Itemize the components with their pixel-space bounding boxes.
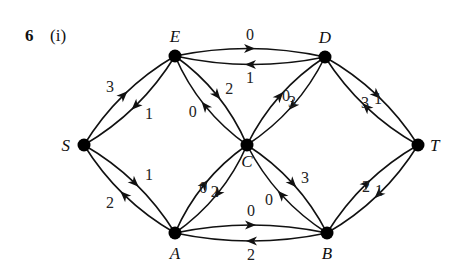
node-label-C: C bbox=[241, 152, 253, 171]
edge-weight-C-B: 3 bbox=[301, 169, 309, 186]
edge-weight-C-A: 0 bbox=[199, 179, 207, 196]
edge-weight-T-D: 1 bbox=[374, 90, 382, 107]
node-A bbox=[169, 227, 182, 240]
edge-B-T bbox=[327, 145, 418, 233]
edge-E-C bbox=[175, 56, 247, 145]
edge-weight-B-A: 2 bbox=[247, 246, 255, 263]
node-label-B: B bbox=[322, 244, 333, 263]
node-E bbox=[169, 50, 182, 63]
edge-weight-S-E: 3 bbox=[106, 78, 114, 95]
edge-weight-B-T: 1 bbox=[375, 182, 383, 199]
edge-T-D bbox=[325, 57, 418, 145]
edge-weight-T-B: 2 bbox=[362, 178, 370, 195]
edge-S-E bbox=[84, 56, 175, 145]
node-T bbox=[412, 139, 425, 152]
node-C bbox=[241, 139, 254, 152]
edge-weight-E-D: 0 bbox=[246, 26, 254, 43]
edge-A-S bbox=[84, 145, 175, 233]
edge-weight-D-T: 3 bbox=[361, 94, 369, 111]
edge-E-S bbox=[84, 56, 175, 145]
node-label-S: S bbox=[62, 136, 71, 155]
edge-weight-A-C: 2 bbox=[211, 183, 219, 200]
node-label-D: D bbox=[318, 28, 332, 47]
edge-C-E bbox=[175, 56, 247, 145]
edge-weight-C-E: 0 bbox=[189, 103, 197, 120]
edge-T-B bbox=[327, 145, 418, 233]
edge-B-C bbox=[247, 145, 327, 233]
edge-weight-D-E: 1 bbox=[246, 69, 254, 86]
node-S bbox=[78, 139, 91, 152]
edge-weight-E-S: 1 bbox=[145, 105, 153, 122]
node-label-A: A bbox=[169, 244, 181, 263]
edge-weight-C-D: 3 bbox=[288, 93, 296, 110]
node-label-E: E bbox=[169, 27, 181, 46]
node-label-T: T bbox=[430, 136, 441, 155]
edge-D-T bbox=[325, 57, 418, 145]
edge-weight-S-A: 1 bbox=[145, 166, 153, 183]
edge-weight-A-B: 0 bbox=[247, 202, 255, 219]
node-B bbox=[321, 227, 334, 240]
node-D bbox=[319, 51, 332, 64]
edge-weight-B-C: 0 bbox=[265, 191, 273, 208]
edge-S-A bbox=[84, 145, 175, 233]
network-diagram: 31012003311202023021SEDCTAB bbox=[0, 0, 455, 274]
edge-weight-E-C: 2 bbox=[225, 80, 233, 97]
edge-weight-A-S: 2 bbox=[106, 194, 114, 211]
edge-C-B bbox=[247, 145, 327, 233]
